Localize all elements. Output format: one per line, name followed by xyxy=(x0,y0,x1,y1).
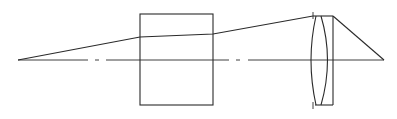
focus-ray xyxy=(333,16,384,60)
optical-diagram xyxy=(0,0,397,119)
doublet-lens xyxy=(311,12,333,109)
marginal-ray xyxy=(18,16,313,60)
glass-block xyxy=(140,14,213,105)
